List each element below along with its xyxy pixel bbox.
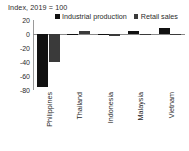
x-axis-tick-label: Vietnam [168, 92, 175, 118]
bar-group [155, 20, 185, 90]
bar-group [63, 20, 93, 90]
legend-swatch-icon [134, 14, 139, 19]
bar[interactable] [109, 34, 120, 36]
y-axis-tick-label: 20 [22, 17, 30, 24]
y-axis-tick-label: -60 [20, 73, 30, 80]
x-axis-category-labels: PhilippinesThailandIndonesiaMalaysiaViet… [33, 92, 185, 150]
bar[interactable] [49, 34, 60, 62]
y-axis-tick-label: -40 [20, 59, 30, 66]
bar[interactable] [140, 34, 151, 35]
y-axis-tick-label: -80 [20, 87, 30, 94]
chart-container: Index, 2019 = 100 Industrial production … [0, 0, 189, 151]
bar[interactable] [98, 34, 109, 35]
y-axis-tick-labels: 200-20-40-60-80 [0, 20, 30, 90]
bar[interactable] [170, 34, 181, 35]
x-axis-tick-label: Thailand [76, 92, 83, 120]
legend-swatch-icon [55, 14, 60, 19]
y-axis-tick-label: -20 [20, 45, 30, 52]
bar-group [94, 20, 124, 90]
bar-group [33, 20, 63, 90]
bar[interactable] [67, 34, 78, 35]
y-axis-tick-label: 0 [26, 31, 30, 38]
x-axis-tick-label: Philippines [46, 92, 53, 127]
x-axis-tick-label: Malaysia [137, 92, 144, 120]
plot-area [33, 20, 185, 90]
bar-group [124, 20, 154, 90]
chart-title: Index, 2019 = 100 [8, 3, 67, 12]
bar[interactable] [159, 28, 170, 34]
bar[interactable] [37, 34, 48, 87]
bar[interactable] [128, 31, 139, 35]
bar[interactable] [79, 31, 90, 35]
x-axis-tick-label: Indonesia [107, 92, 114, 123]
